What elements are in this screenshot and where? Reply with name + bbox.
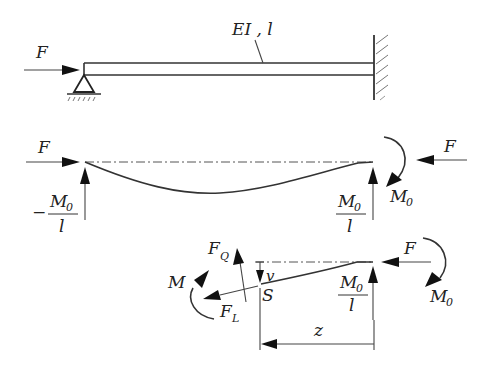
arrowhead-icon [416, 155, 434, 165]
arrowhead-icon [62, 157, 80, 167]
moment-arc [423, 238, 446, 278]
beam-property-label: EI , l [231, 19, 273, 39]
deflection-curve [85, 162, 373, 193]
arrowhead-icon [62, 65, 80, 75]
middle-free-body: F − M 0 l M 0 l M 0 F [26, 136, 467, 236]
dimension-label: z [313, 320, 324, 340]
arrowhead-icon [368, 266, 378, 283]
arrowhead-icon [256, 270, 264, 283]
shear-arrow-shaft [240, 262, 246, 302]
deflection-label: v [266, 267, 275, 285]
moment0-label-sub: 0 [446, 296, 453, 309]
fixed-wall-icon [374, 35, 388, 100]
moment-arc [191, 288, 214, 319]
svg-text:0: 0 [356, 282, 363, 295]
top-beam-system: F EI , l [24, 19, 388, 101]
right-reaction-label: M 0 l [336, 191, 366, 236]
arrowhead-icon [194, 270, 209, 288]
svg-text:l: l [349, 295, 354, 315]
left-reaction-label: − M 0 l [32, 191, 78, 236]
force-label: F [403, 238, 417, 258]
moment-arc [384, 137, 405, 178]
moment-label-sub: 0 [406, 196, 413, 209]
label-leader-line [255, 40, 263, 63]
svg-text:0: 0 [354, 201, 361, 214]
svg-text:−: − [32, 202, 46, 222]
pin-support-icon [67, 75, 101, 101]
arrowhead-icon [381, 257, 399, 267]
svg-text:0: 0 [66, 201, 73, 214]
shear-label-sub: Q [220, 250, 229, 263]
svg-text:l: l [347, 216, 352, 236]
section-label: S [262, 285, 274, 305]
normal-label-sub: L [231, 312, 239, 325]
arrowhead-icon [368, 167, 378, 184]
arrowhead-icon [80, 167, 90, 184]
normal-label: F [219, 301, 233, 321]
arrowhead-icon [233, 248, 244, 265]
arrowhead-icon [261, 339, 277, 349]
moment-label: M [167, 272, 186, 292]
svg-text:l: l [59, 216, 64, 236]
force-label: F [35, 42, 49, 62]
left-force-label: F [37, 137, 51, 157]
arrowhead-icon [203, 290, 221, 300]
beam-buckling-diagram: F EI , l [0, 0, 491, 370]
right-force-label: F [443, 136, 457, 156]
bottom-section-cut: v S F Q F L M M 0 l F M 0 [167, 238, 453, 350]
shear-label: F [207, 238, 221, 258]
normal-arrow-shaft [220, 286, 258, 295]
arrowhead-icon [386, 172, 402, 187]
reaction-label: M 0 l [338, 272, 368, 315]
arrowhead-icon [425, 272, 442, 287]
